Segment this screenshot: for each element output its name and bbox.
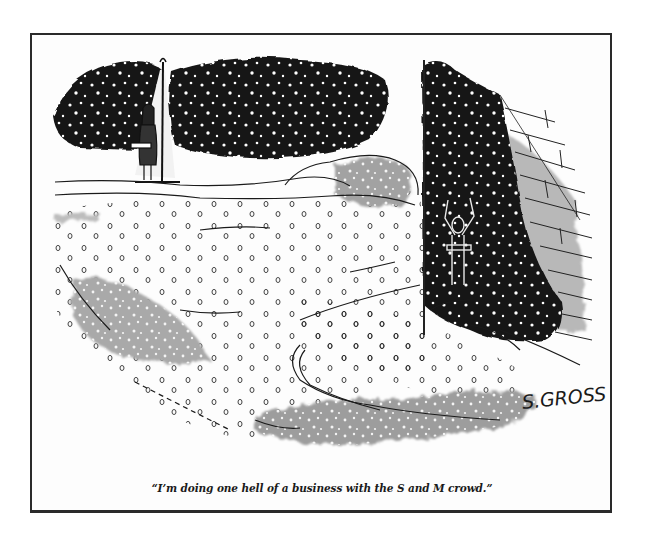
- cartoon-illustration: S.GROSS: [0, 0, 645, 534]
- cartoon-caption: “I’m doing one hell of a business with t…: [30, 482, 614, 494]
- svg-text:S.GROSS: S.GROSS: [521, 382, 607, 413]
- artist-signature: S.GROSS: [521, 382, 607, 413]
